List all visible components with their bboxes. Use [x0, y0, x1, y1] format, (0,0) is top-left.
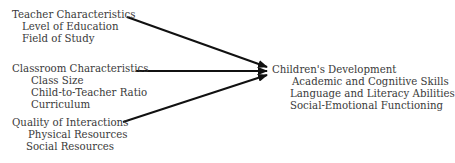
- teacher-characteristics-title: Teacher Characteristics: [12, 9, 135, 21]
- classroom-item-ratio: Child-to-Teacher Ratio: [12, 87, 148, 99]
- classroom-characteristics-title: Classroom Characteristics: [12, 63, 148, 75]
- outcome-item-social-emotional: Social-Emotional Functioning: [272, 100, 455, 112]
- quality-item-social: Social Resources: [12, 141, 128, 153]
- quality-of-interactions-title: Quality of Interactions: [12, 117, 128, 129]
- childrens-development-block: Children's Development Academic and Cogn…: [272, 64, 455, 112]
- quality-of-interactions-block: Quality of Interactions Physical Resourc…: [12, 117, 128, 153]
- teacher-item-field: Field of Study: [12, 33, 135, 45]
- classroom-item-class-size: Class Size: [12, 75, 148, 87]
- teacher-characteristics-block: Teacher Characteristics Level of Educati…: [12, 9, 135, 45]
- teacher-item-education: Level of Education: [12, 21, 135, 33]
- quality-item-physical: Physical Resources: [12, 129, 128, 141]
- classroom-characteristics-block: Classroom Characteristics Class Size Chi…: [12, 63, 148, 111]
- childrens-development-title: Children's Development: [272, 64, 455, 76]
- outcome-item-academic: Academic and Cognitive Skills: [272, 76, 455, 88]
- outcome-item-language: Language and Literacy Abilities: [272, 88, 455, 100]
- arrow-teacher-to-development: [127, 17, 267, 67]
- classroom-item-curriculum: Curriculum: [12, 99, 148, 111]
